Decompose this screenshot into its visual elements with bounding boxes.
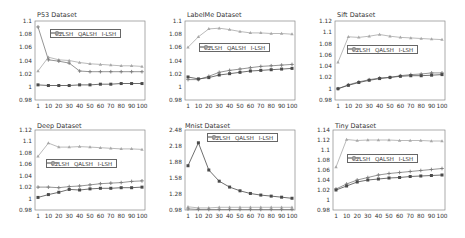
svg-text:0.98: 0.98: [19, 97, 32, 103]
svg-text:30: 30: [216, 213, 224, 219]
svg-text:10: 10: [195, 213, 203, 219]
svg-text:1.06: 1.06: [19, 44, 32, 50]
svg-text:1.28: 1.28: [169, 191, 182, 197]
svg-text:2.48: 2.48: [169, 127, 182, 133]
svg-text:1.12: 1.12: [319, 18, 332, 24]
svg-text:10: 10: [343, 213, 351, 219]
svg-text:90: 90: [428, 213, 436, 219]
svg-text:1.08: 1.08: [19, 150, 32, 156]
svg-text:70: 70: [107, 103, 115, 109]
svg-text:1: 1: [28, 196, 32, 202]
series-ilsh: [334, 138, 443, 169]
svg-text:1.02: 1.02: [19, 71, 32, 77]
svg-text:1.06: 1.06: [317, 167, 330, 173]
svg-text:100: 100: [436, 213, 447, 219]
svg-text:10: 10: [45, 103, 53, 109]
series-ilsh: [36, 55, 143, 72]
series-c2lsh: [187, 141, 294, 199]
svg-text:2.18: 2.18: [169, 143, 182, 149]
legend-label: I-LSH: [102, 31, 116, 37]
svg-text:20: 20: [205, 213, 213, 219]
svg-text:0.98: 0.98: [19, 207, 32, 213]
legend-label: I-LSH: [98, 161, 112, 167]
legend-item-qalsh: QALSH: [227, 45, 246, 51]
svg-text:90: 90: [278, 213, 286, 219]
legend-marker-icon: [208, 134, 220, 140]
svg-text:30: 30: [216, 103, 224, 109]
svg-text:1.06: 1.06: [169, 44, 182, 50]
svg-text:50: 50: [386, 103, 394, 109]
svg-text:1.12: 1.12: [317, 137, 330, 143]
legend-marker-icon: [200, 44, 212, 50]
svg-text:1.14: 1.14: [317, 127, 330, 133]
svg-text:10: 10: [195, 103, 203, 109]
legend-label: QALSH: [78, 31, 97, 37]
legend-item-qalsh: QALSH: [375, 156, 394, 162]
svg-text:40: 40: [76, 103, 84, 109]
legend-item-ilsh: I-LSH: [399, 47, 413, 53]
svg-text:60: 60: [97, 213, 105, 219]
plot-area: 0.9811.021.041.061.081.11.121.1411020304…: [310, 119, 465, 238]
svg-text:40: 40: [76, 213, 84, 219]
svg-text:90: 90: [128, 213, 136, 219]
svg-text:1.04: 1.04: [19, 173, 32, 179]
legend-item-qalsh: QALSH: [78, 31, 97, 37]
svg-text:1: 1: [36, 213, 40, 219]
svg-text:1: 1: [186, 213, 190, 219]
legend-item-ilsh: I-LSH: [251, 45, 265, 51]
svg-text:20: 20: [55, 213, 63, 219]
svg-text:1.06: 1.06: [19, 161, 32, 167]
svg-text:80: 80: [418, 103, 426, 109]
svg-text:1.08: 1.08: [319, 41, 332, 47]
svg-text:50: 50: [236, 213, 244, 219]
svg-text:100: 100: [136, 213, 147, 219]
svg-text:1.04: 1.04: [169, 58, 182, 64]
legend-item-ilsh: I-LSH: [102, 31, 116, 37]
svg-text:1.88: 1.88: [169, 159, 182, 165]
svg-text:50: 50: [385, 213, 393, 219]
legend: C2LSHQALSHI-LSH: [347, 45, 418, 54]
svg-text:90: 90: [278, 103, 286, 109]
legend: C2LSHQALSHI-LSH: [50, 29, 121, 38]
svg-text:90: 90: [428, 103, 436, 109]
series-ilsh: [36, 141, 143, 157]
svg-text:40: 40: [226, 103, 234, 109]
svg-text:80: 80: [268, 213, 276, 219]
svg-text:50: 50: [86, 213, 94, 219]
legend-label: I-LSH: [399, 156, 413, 162]
legend: C2LSHQALSHI-LSH: [207, 133, 278, 142]
svg-text:30: 30: [66, 103, 74, 109]
svg-text:1.06: 1.06: [319, 52, 332, 58]
svg-text:1: 1: [334, 213, 338, 219]
svg-text:20: 20: [354, 213, 362, 219]
svg-text:70: 70: [257, 213, 265, 219]
series-c2lsh: [37, 82, 144, 87]
legend: C2LSHQALSHI-LSH: [199, 43, 270, 52]
svg-text:70: 70: [107, 213, 115, 219]
legend-label: QALSH: [74, 161, 93, 167]
legend-item-ilsh: I-LSH: [399, 156, 413, 162]
svg-text:60: 60: [396, 213, 404, 219]
legend-item-ilsh: I-LSH: [98, 161, 112, 167]
legend-label: I-LSH: [251, 45, 265, 51]
svg-text:60: 60: [397, 103, 405, 109]
svg-text:80: 80: [417, 213, 425, 219]
svg-text:50: 50: [86, 103, 94, 109]
svg-text:1.1: 1.1: [323, 29, 333, 35]
svg-text:40: 40: [226, 213, 234, 219]
svg-text:1.04: 1.04: [319, 63, 332, 69]
svg-text:100: 100: [136, 103, 147, 109]
svg-text:1.08: 1.08: [19, 31, 32, 37]
svg-text:30: 30: [66, 213, 74, 219]
svg-text:1: 1: [28, 84, 32, 90]
svg-text:100: 100: [286, 213, 297, 219]
svg-text:1: 1: [328, 86, 332, 92]
svg-text:30: 30: [364, 213, 372, 219]
svg-text:1.02: 1.02: [19, 184, 32, 190]
legend-label: I-LSH: [399, 47, 413, 53]
svg-text:1.02: 1.02: [319, 74, 332, 80]
svg-text:80: 80: [268, 103, 276, 109]
legend-item-qalsh: QALSH: [74, 161, 93, 167]
legend-marker-icon: [51, 30, 63, 36]
svg-text:100: 100: [286, 103, 297, 109]
